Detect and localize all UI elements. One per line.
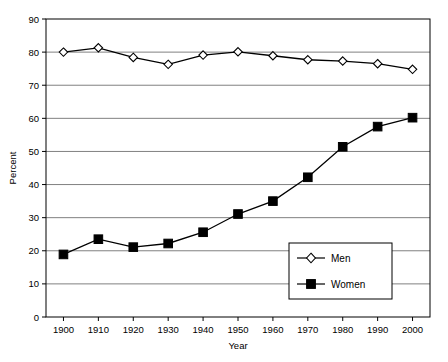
data-point-marker bbox=[269, 197, 278, 206]
y-axis-tick-label: 60 bbox=[28, 113, 39, 124]
line-chart: 0102030405060708090 19001910192019301940… bbox=[0, 0, 448, 362]
data-point-marker bbox=[129, 243, 138, 252]
x-axis-tick-label: 1930 bbox=[158, 324, 179, 335]
x-axis-tick-label: 1910 bbox=[88, 324, 109, 335]
x-axis-tick-label: 2000 bbox=[402, 324, 423, 335]
x-axis-tick-label: 1950 bbox=[227, 324, 248, 335]
y-axis-tick-label: 10 bbox=[28, 278, 39, 289]
x-axis-title: Year bbox=[228, 340, 247, 351]
data-point-marker bbox=[59, 250, 68, 259]
x-axis-tick-label: 1960 bbox=[262, 324, 283, 335]
data-point-marker bbox=[164, 239, 173, 248]
chart-background bbox=[0, 0, 448, 362]
y-axis-tick-label: 50 bbox=[28, 146, 39, 157]
legend: Men Women bbox=[289, 243, 392, 299]
legend-label-men: Men bbox=[331, 253, 350, 264]
y-axis-tick-label: 40 bbox=[28, 179, 39, 190]
filled-square-icon bbox=[307, 280, 316, 289]
y-axis-tick-label: 0 bbox=[34, 312, 39, 323]
y-axis-tick-label: 20 bbox=[28, 245, 39, 256]
data-point-marker bbox=[234, 210, 243, 219]
data-point-marker bbox=[338, 143, 347, 152]
chart-canvas: 0102030405060708090 19001910192019301940… bbox=[0, 0, 448, 362]
y-axis-tick-label: 70 bbox=[28, 80, 39, 91]
y-axis-tick-label: 90 bbox=[28, 14, 39, 25]
x-axis-tick-label: 1980 bbox=[332, 324, 353, 335]
data-point-marker bbox=[199, 228, 208, 237]
x-axis-tick-labels: 1900191019201930194019501960197019801990… bbox=[53, 324, 423, 335]
legend-label-women: Women bbox=[331, 279, 365, 290]
data-point-marker bbox=[94, 235, 103, 244]
x-axis-tick-label: 1970 bbox=[297, 324, 318, 335]
x-axis-tick-label: 1940 bbox=[193, 324, 214, 335]
legend-item-women: Women bbox=[297, 279, 365, 290]
legend-box bbox=[289, 243, 392, 299]
x-axis-tick-label: 1900 bbox=[53, 324, 74, 335]
data-point-marker bbox=[373, 122, 382, 131]
y-axis-tick-label: 80 bbox=[28, 47, 39, 58]
y-axis-title: Percent bbox=[7, 151, 18, 184]
data-point-marker bbox=[408, 113, 417, 122]
x-axis-tick-label: 1920 bbox=[123, 324, 144, 335]
y-axis-tick-label: 30 bbox=[28, 212, 39, 223]
x-axis-tick-label: 1990 bbox=[367, 324, 388, 335]
data-point-marker bbox=[304, 173, 313, 182]
